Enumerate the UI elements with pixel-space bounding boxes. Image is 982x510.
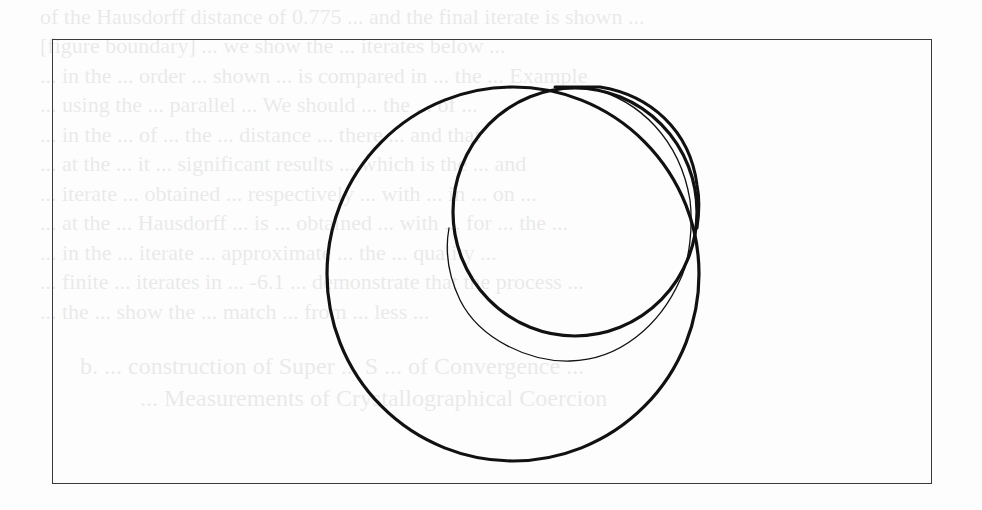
small-circle bbox=[453, 88, 697, 336]
circles-diagram bbox=[0, 0, 982, 510]
scanned-page: of the Hausdorff distance of 0.775 ... a… bbox=[0, 0, 982, 510]
large-circle bbox=[327, 87, 699, 461]
